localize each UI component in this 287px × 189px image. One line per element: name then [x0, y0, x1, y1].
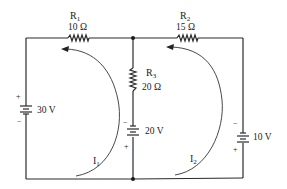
resistor-r1: R1 10 Ω — [68, 10, 89, 41]
battery-10v: − + 10 V — [233, 119, 272, 154]
battery-icon — [127, 126, 139, 135]
v1-label: 30 V — [37, 105, 56, 115]
svg-text:+: + — [124, 142, 129, 151]
battery-icon — [237, 133, 249, 142]
svg-text:−: − — [17, 117, 22, 126]
junction-bottom — [131, 177, 135, 181]
svg-text:I2: I2 — [190, 153, 197, 166]
svg-text:−: − — [233, 119, 238, 128]
arrow-icon — [166, 44, 174, 50]
resistor-r3: R3 20 Ω — [130, 67, 161, 92]
r3-value: 20 Ω — [142, 82, 161, 92]
battery-20v: − + 20 V — [123, 118, 164, 151]
resistor-zigzag-icon — [68, 35, 89, 41]
loop-current-i2: I2 — [166, 44, 222, 175]
r2-value: 15 Ω — [176, 22, 195, 32]
r1-value: 10 Ω — [68, 22, 87, 32]
resistor-zigzag-icon — [130, 68, 136, 91]
svg-text:+: + — [16, 92, 21, 101]
battery-icon — [20, 106, 32, 114]
v2-label: 20 V — [145, 126, 164, 136]
resistor-zigzag-icon — [177, 35, 198, 41]
svg-text:I1: I1 — [93, 155, 100, 168]
v3-label: 10 V — [253, 132, 272, 142]
svg-text:−: − — [123, 118, 128, 127]
circuit-diagram: R1 10 Ω R2 15 Ω R3 20 Ω + − 30 V − — [0, 0, 287, 189]
svg-text:+: + — [233, 145, 238, 154]
junction-top — [131, 36, 135, 40]
battery-30v: + − 30 V — [16, 92, 56, 126]
arrow-icon — [61, 46, 69, 52]
loop-current-i1: I1 — [61, 46, 119, 176]
resistor-r2: R2 15 Ω — [176, 10, 198, 41]
wires — [26, 38, 243, 179]
svg-text:R3: R3 — [146, 67, 157, 80]
